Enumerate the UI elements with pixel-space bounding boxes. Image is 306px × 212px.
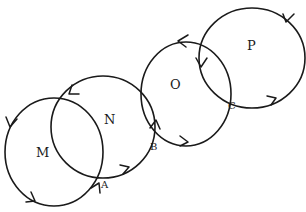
loop-n (51, 76, 155, 178)
diagram-drawing (0, 0, 306, 212)
region-label-p: P (247, 39, 256, 52)
arrow-p-left-icon (196, 58, 207, 67)
region-label-n: N (104, 113, 115, 126)
point-label-a: A (101, 180, 108, 190)
region-label-o: O (170, 78, 181, 91)
arrow-o-top-icon (178, 35, 188, 47)
loop-m (5, 98, 103, 206)
loop-o (141, 42, 231, 146)
point-label-c: C (228, 101, 236, 111)
loop-chain-diagram: M N O P A B C (0, 0, 306, 212)
arrow-o-bottom-icon (180, 136, 188, 146)
loop-p (199, 8, 305, 108)
point-label-b: B (150, 142, 157, 152)
region-label-m: M (36, 146, 49, 159)
